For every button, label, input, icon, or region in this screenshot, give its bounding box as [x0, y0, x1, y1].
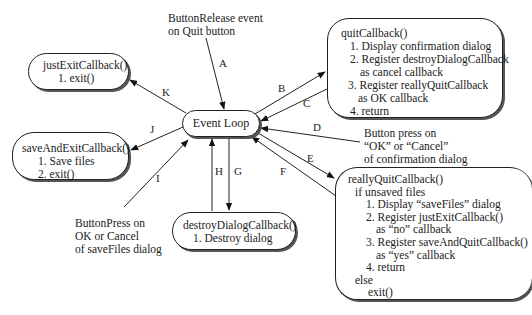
node-step: 2. exit()	[22, 168, 128, 181]
node-title: destroyDialogCallback()	[183, 219, 295, 232]
node-step-cont: as “yes” callback	[348, 249, 532, 262]
edge-a	[206, 38, 224, 109]
edge-label-j: J	[150, 123, 154, 135]
annotation-savefiles-event: ButtonPress on OK or Cancel of saveFiles…	[75, 217, 162, 256]
edge-label-k: K	[162, 86, 170, 98]
node-title: quitCallback()	[341, 27, 502, 40]
node-step: 2. Register justExitCallback()	[348, 211, 532, 224]
edge-b	[255, 72, 325, 114]
node-step: 4. return	[348, 261, 532, 274]
node-step: 3. Register saveAndQuitCallback()	[348, 236, 532, 249]
node-step: 1. exit()	[43, 72, 128, 85]
edge-d	[261, 128, 360, 142]
annotation-line: on Quit button	[168, 25, 263, 38]
edge-label-e: E	[307, 152, 314, 164]
annotation-line: of saveFiles dialog	[75, 243, 162, 256]
edge-label-g: G	[234, 165, 242, 177]
edge-label-c: C	[303, 97, 310, 109]
event-loop-label: Event Loop	[193, 116, 249, 130]
event-loop-node: Event Loop	[182, 110, 260, 137]
node-step: 2. Register destroyDialogCallback	[341, 53, 502, 66]
node-step: 4. return	[341, 105, 502, 118]
node-step-cont: as “no” callback	[348, 223, 532, 236]
edge-j	[131, 127, 183, 150]
node-step: 1. Destroy dialog	[183, 232, 295, 245]
annotation-line: of confirmation dialog	[364, 153, 467, 166]
node-title: saveAndExitCallback()	[22, 142, 128, 155]
node-title: justExitCallback()	[43, 59, 128, 72]
annotation-confirm-event: Button press on “OK” or “Cancel” of conf…	[364, 127, 467, 166]
edge-label-f: F	[280, 165, 286, 177]
node-step: 1. Display confirmation dialog	[341, 40, 502, 53]
node-step-cont: as OK callback	[341, 92, 502, 105]
annotation-line: ButtonPress on	[75, 217, 162, 230]
node-step: 1. Display “saveFiles” dialog	[348, 198, 532, 211]
edge-label-h: H	[215, 165, 223, 177]
node-step: 1. Save files	[22, 155, 128, 168]
edge-label-b: B	[278, 82, 285, 94]
edge-label-d: D	[313, 121, 321, 133]
annotation-line: “OK” or “Cancel”	[364, 140, 467, 153]
node-step-cont: as cancel callback	[341, 66, 502, 79]
edge-label-i: I	[156, 172, 160, 184]
node-title: reallyQuitCallback()	[348, 173, 532, 186]
edge-label-a: A	[219, 57, 227, 69]
really-quit-callback-node: reallyQuitCallback() if unsaved files 1.…	[335, 167, 532, 300]
annotation-line: ButtonRelease event	[168, 12, 263, 25]
edge-f	[252, 137, 336, 196]
node-else: else	[348, 274, 532, 287]
node-step: 3. Register reallyQuitCallback	[341, 79, 502, 92]
just-exit-callback-node: justExitCallback() 1. exit()	[28, 53, 129, 90]
node-step: exit()	[348, 286, 532, 299]
edge-k	[130, 80, 186, 113]
destroy-dialog-callback-node: destroyDialogCallback() 1. Destroy dialo…	[172, 212, 296, 250]
quit-callback-node: quitCallback() 1. Display confirmation d…	[327, 18, 503, 118]
save-and-exit-callback-node: saveAndExitCallback() 1. Save files 2. e…	[12, 132, 129, 180]
edge-e	[258, 133, 334, 178]
annotation-line: Button press on	[364, 127, 467, 140]
annotation-quit-event: ButtonRelease event on Quit button	[168, 12, 263, 38]
node-condition: if unsaved files	[348, 186, 532, 199]
annotation-line: OK or Cancel	[75, 230, 162, 243]
